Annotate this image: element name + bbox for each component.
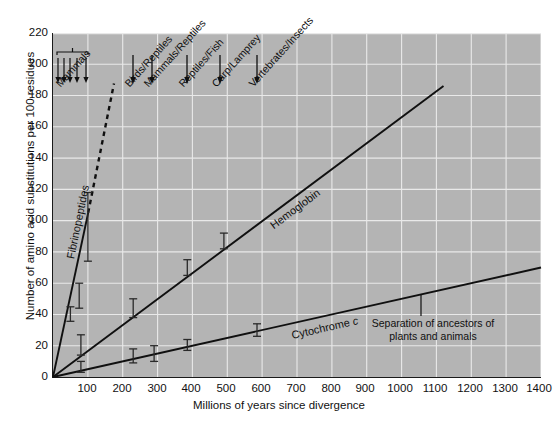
evolutionary-clock-chart: Hemoglobin Cytochrome c Fibrinopeptides … bbox=[0, 0, 558, 428]
annotation-separation: Separation of ancestors of plants and an… bbox=[353, 317, 513, 342]
x-tick-1400: 1400 bbox=[516, 382, 558, 394]
y-tick-0: 0 bbox=[4, 371, 48, 383]
x-axis-label: Millions of years since divergence bbox=[0, 399, 558, 411]
y-tick-20: 20 bbox=[4, 340, 48, 352]
divergence-label-vertebrates-insects: Vertebrates/Insects bbox=[247, 15, 315, 89]
errorbars-hemoglobin bbox=[77, 233, 228, 355]
figure-caption-cropped bbox=[0, 414, 558, 428]
divergence-labels: Mammals Birds/Reptiles Mammals/Reptiles … bbox=[0, 0, 558, 120]
annotation-separation-line2: plants and animals bbox=[353, 330, 513, 343]
y-axis-label: Number of amino acid substitutions per 1… bbox=[24, 36, 36, 336]
annotation-separation-line1: Separation of ancestors of bbox=[353, 317, 513, 330]
divergence-label-mammals: Mammals bbox=[54, 48, 93, 89]
